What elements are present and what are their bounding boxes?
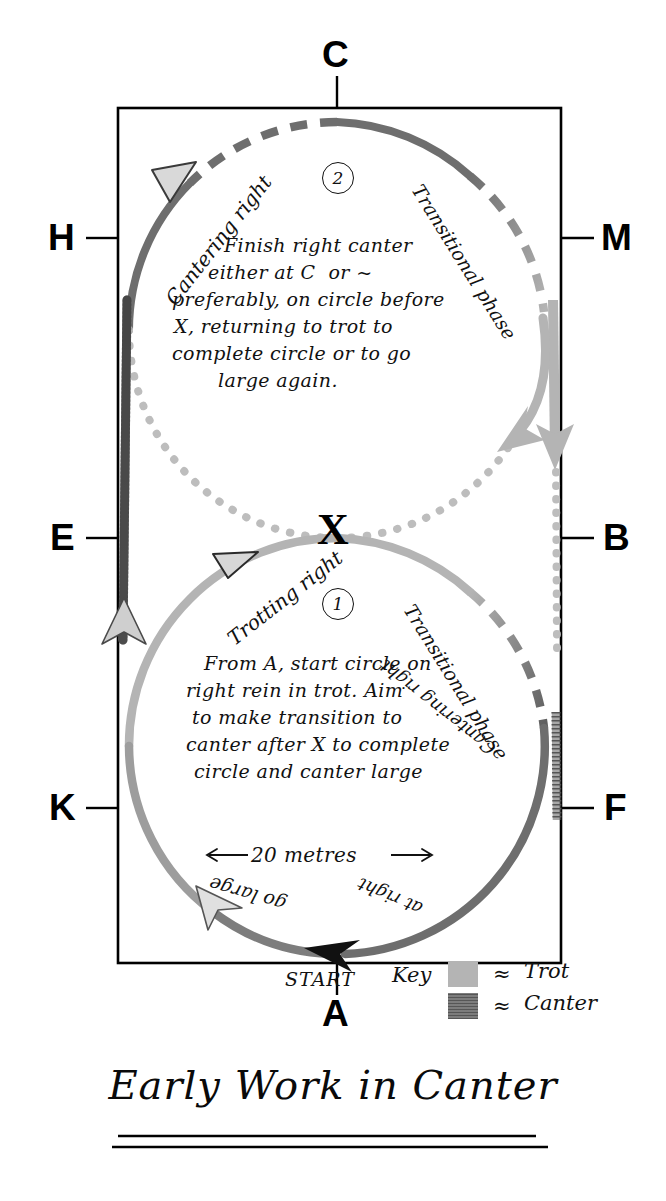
diagram-canvas: C H M E B K F A X 2 1 Finish right cante… bbox=[0, 0, 666, 1201]
legend-title: Key bbox=[392, 963, 431, 987]
legend-label-canter: Canter bbox=[524, 991, 597, 1015]
page-title-text: Early Work in Canter bbox=[104, 1062, 561, 1108]
legend-swatch-trot bbox=[448, 961, 478, 987]
legend-approx-trot: ≈ bbox=[493, 962, 511, 986]
legend: Key ≈ Trot ≈ Canter bbox=[0, 0, 666, 1201]
legend-swatch-canter bbox=[448, 993, 478, 1019]
page-title: Early Work in Canter bbox=[0, 1062, 666, 1108]
legend-label-trot: Trot bbox=[524, 959, 569, 983]
legend-approx-canter: ≈ bbox=[493, 994, 511, 1018]
